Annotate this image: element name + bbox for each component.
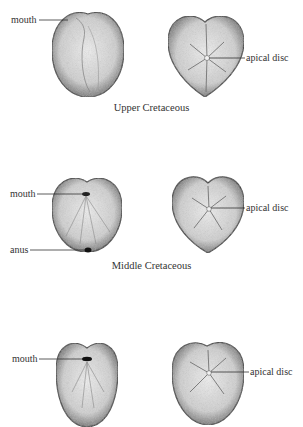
urchin-aboral-view-lower bbox=[172, 343, 244, 425]
label-apical-disc: apical disc bbox=[246, 53, 288, 63]
echinoid-evolution-figure: mouth apical disc Upper Cretaceous mouth… bbox=[0, 0, 303, 427]
label-mouth: mouth bbox=[10, 189, 36, 199]
urchin-aboral-view-middle bbox=[172, 177, 244, 253]
label-mouth: mouth bbox=[11, 15, 37, 25]
urchin-oral-view-lower bbox=[56, 343, 118, 427]
urchin-aboral-view-upper bbox=[168, 16, 244, 97]
urchin-oral-view-middle bbox=[52, 178, 122, 252]
label-apical-disc: apical disc bbox=[246, 203, 288, 213]
label-mouth: mouth bbox=[12, 354, 38, 364]
caption-upper-cretaceous: Upper Cretaceous bbox=[0, 102, 303, 113]
echinoid-illustrations bbox=[0, 0, 303, 427]
urchin-oral-view-upper bbox=[52, 13, 124, 97]
caption-middle-cretaceous: Middle Cretaceous bbox=[0, 260, 303, 271]
label-apical-disc: apical disc bbox=[250, 367, 292, 377]
label-anus: anus bbox=[10, 245, 28, 255]
